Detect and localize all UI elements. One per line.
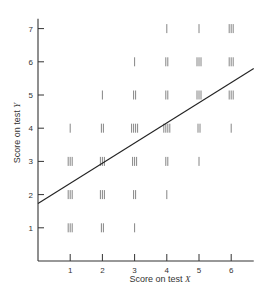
y-tick-label: 3	[29, 157, 34, 166]
tally-group	[229, 57, 233, 66]
axis-ticks: 1234561234567	[29, 25, 234, 275]
tally-group	[166, 57, 168, 66]
tally-group	[100, 190, 104, 199]
x-tick-label: 6	[229, 266, 234, 275]
tally-marks	[68, 24, 233, 232]
tally-group	[68, 223, 72, 232]
tally-group	[68, 190, 72, 199]
regression-line	[38, 68, 254, 203]
x-tick-label: 1	[68, 266, 73, 275]
tally-group	[134, 91, 136, 100]
tally-group	[197, 91, 201, 100]
tally-scatterplot: 1234561234567	[0, 0, 265, 299]
tally-group	[101, 223, 103, 232]
x-axis-label: Score on test X	[100, 274, 220, 284]
tally-group	[229, 24, 233, 33]
regression-line-path	[38, 68, 254, 203]
y-tick-label: 6	[29, 58, 34, 67]
tally-group	[164, 124, 170, 133]
tally-group	[166, 157, 168, 166]
tally-group	[133, 157, 137, 166]
tally-group	[68, 157, 72, 166]
tally-group	[198, 124, 200, 133]
y-tick-label: 7	[29, 25, 34, 34]
tally-group	[166, 91, 168, 100]
tally-group	[197, 57, 201, 66]
tally-group	[134, 190, 136, 199]
y-tick-label: 2	[29, 191, 34, 200]
tally-group	[229, 91, 233, 100]
y-axis-label: Score on test Y	[12, 78, 22, 188]
y-tick-label: 4	[29, 124, 34, 133]
y-tick-label: 5	[29, 91, 34, 100]
y-tick-label: 1	[29, 224, 34, 233]
tally-group	[101, 124, 103, 133]
tally-group	[132, 124, 138, 133]
